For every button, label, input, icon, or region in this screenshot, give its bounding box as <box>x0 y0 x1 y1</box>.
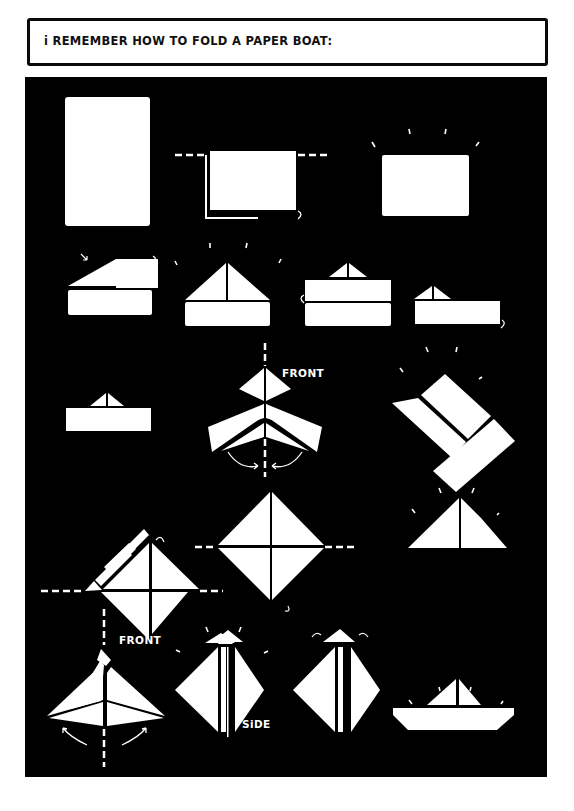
page-title: i REMEMBER HOW TO FOLD A PAPER BOAT: <box>44 34 332 48</box>
title-box: i REMEMBER HOW TO FOLD A PAPER BOAT: <box>27 18 548 66</box>
step-1-sheet <box>65 97 150 226</box>
arrow-icon <box>272 452 302 469</box>
arrow-icon <box>63 728 87 745</box>
label-front-2: FRONT <box>119 634 161 646</box>
step-12-diamond <box>195 492 355 611</box>
arrow-icon <box>228 452 258 469</box>
step-10-side-square <box>392 347 515 492</box>
step-9-open-front <box>208 343 322 477</box>
sparkle-icon <box>372 129 479 147</box>
label-front-1: FRONT <box>282 367 324 379</box>
step-17-boat <box>393 679 514 730</box>
step-2-fold-half <box>175 151 331 219</box>
step-13-triangle <box>408 488 507 548</box>
step-16-pull-tips <box>293 629 380 732</box>
step-11-fold-bottom <box>41 529 223 640</box>
step-5-hat <box>175 243 281 326</box>
step-4-fold-corner <box>68 254 158 315</box>
step-6-fold-strip <box>301 263 391 326</box>
step-3-folded <box>372 129 479 216</box>
step-7-flip <box>414 286 504 328</box>
label-side-2: SiDE <box>242 718 271 730</box>
label-side-1: SiDE <box>471 444 500 456</box>
instructions-panel: FRONT SiDE FRONT SiDE <box>25 77 547 777</box>
folding-diagram <box>25 77 547 777</box>
sparkle-icon <box>400 347 482 379</box>
step-8-hat-strip <box>66 393 151 431</box>
arrow-icon <box>81 254 87 260</box>
sparkle-icon <box>175 243 281 265</box>
arrow-icon <box>122 728 146 745</box>
